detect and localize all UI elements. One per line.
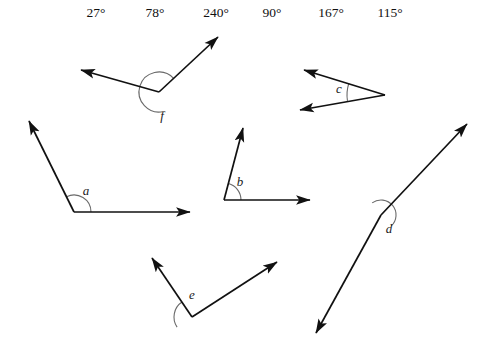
angle-e-arc [174, 302, 182, 327]
angle-figures-canvas: fcabed [0, 0, 486, 356]
angle-c-arm-lower-left [300, 95, 385, 110]
angle-e-label: e [189, 287, 195, 302]
angle-c-arm-upper-left [304, 70, 385, 95]
angle-c-arc [347, 83, 349, 101]
angle-f-arm-upper-right [159, 37, 218, 92]
angle-e-arm-upper-left [152, 258, 192, 317]
angle-f-arm-left [81, 70, 159, 92]
angle-d-arm-upper-right [381, 124, 467, 215]
angle-e-arm-upper-right [192, 262, 277, 317]
angle-c: c [300, 70, 385, 110]
angle-figures-layer: fcabed [0, 0, 486, 356]
angle-worksheet: 27°78°240°90°167°115° fcabed [0, 0, 486, 356]
angle-b: b [224, 128, 310, 200]
angle-f: f [81, 37, 218, 123]
angle-a-label: a [83, 183, 90, 198]
angle-d-label: d [386, 221, 393, 236]
angle-c-label: c [336, 81, 342, 96]
angle-a: a [29, 121, 190, 212]
angle-d-arm-lower-left [316, 215, 381, 333]
angle-f-label: f [160, 108, 166, 123]
angle-d: d [316, 124, 467, 333]
angle-b-arm-upper-right [224, 128, 243, 200]
angle-e: e [152, 258, 277, 327]
angle-a-arm-upper-left [29, 121, 74, 212]
angle-b-label: b [237, 174, 244, 189]
